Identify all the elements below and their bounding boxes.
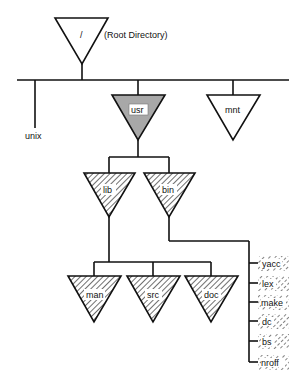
file-label: make: [261, 298, 283, 308]
mnt-directory-node: mnt: [207, 95, 260, 140]
doc-directory-node: doc: [185, 276, 238, 322]
src-directory-node: src: [127, 276, 180, 322]
file-yacc: yacc: [258, 256, 289, 271]
file-label: lex: [262, 279, 274, 289]
man-label: man: [86, 290, 104, 300]
doc-label: doc: [204, 290, 219, 300]
bin-directory-node: bin: [144, 173, 195, 217]
root-annotation: (Root Directory): [104, 30, 168, 40]
file-lex: lex: [258, 276, 289, 291]
unix-file-label: unix: [25, 131, 42, 141]
bin-file-list: yacc lex make dc bs nroff: [258, 256, 289, 370]
man-directory-node: man: [68, 276, 121, 322]
root-directory-node: / (Root Directory): [55, 18, 168, 64]
file-label: dc: [262, 317, 272, 327]
lib-label: lib: [103, 185, 112, 195]
file-label: yacc: [262, 259, 281, 269]
file-make: make: [258, 295, 289, 310]
directory-tree-diagram: / (Root Directory) unix usr mnt lib bin …: [0, 0, 306, 385]
file-bs: bs: [258, 334, 289, 349]
src-label: src: [147, 290, 159, 300]
bin-label: bin: [162, 185, 174, 195]
usr-label: usr: [131, 105, 144, 115]
lib-directory-node: lib: [84, 173, 135, 217]
diagram-canvas: / (Root Directory) unix usr mnt lib bin …: [0, 0, 306, 385]
file-nroff: nroff: [258, 355, 289, 370]
file-label: nroff: [261, 358, 279, 368]
file-dc: dc: [258, 314, 289, 329]
usr-directory-node: usr: [112, 95, 165, 140]
file-label: bs: [262, 337, 272, 347]
mnt-label: mnt: [225, 105, 241, 115]
